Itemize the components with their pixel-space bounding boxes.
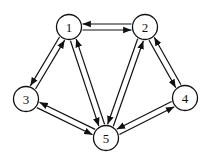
directed-graph-diagram: 12345 [0,0,210,162]
node-label: 1 [66,20,73,35]
node-5: 5 [94,126,119,151]
edge-2-to-5 [108,39,138,125]
edge-3-to-1 [35,40,64,89]
edge-1-to-5 [70,41,98,126]
node-3: 3 [14,87,39,112]
node-label: 2 [142,20,149,35]
edge-5-to-2 [113,41,143,127]
edge-3-to-5 [37,108,93,135]
edge-4-to-2 [154,37,181,84]
edge-5-to-4 [119,107,174,135]
node-4: 4 [173,86,198,111]
edge-5-to-3 [39,102,95,129]
edge-2-to-4 [149,40,176,87]
edge-1-to-3 [30,37,59,86]
node-label: 5 [103,131,110,146]
node-label: 3 [23,92,30,107]
edges-layer [30,24,181,135]
edge-4-to-5 [117,101,172,129]
node-2: 2 [133,15,158,40]
node-1: 1 [57,15,82,40]
node-label: 4 [182,91,189,106]
nodes-layer: 12345 [14,15,198,151]
edge-5-to-1 [76,39,104,124]
